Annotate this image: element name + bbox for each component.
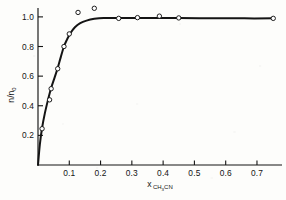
data-point-marker bbox=[47, 98, 51, 102]
x-axis-title: xCH3CN bbox=[147, 179, 172, 192]
x-axis-tick-labels: 0.10.20.30.40.50.60.7 bbox=[63, 168, 263, 178]
x-tick-label: 0.6 bbox=[220, 168, 232, 178]
data-point-marker bbox=[117, 16, 121, 20]
x-tick-label: 0.1 bbox=[63, 168, 75, 178]
chart-plot: 0.10.20.30.40.50.60.7 0.20.40.60.81.0 n/… bbox=[0, 0, 286, 200]
data-point-marker bbox=[40, 127, 44, 131]
axes-group bbox=[38, 8, 282, 165]
x-tick-label: 0.7 bbox=[251, 168, 263, 178]
data-point-marker bbox=[271, 16, 275, 20]
y-tick-label: 0.6 bbox=[22, 71, 34, 81]
y-axis-title: n/n0 bbox=[6, 87, 17, 103]
data-point-marker bbox=[92, 6, 96, 10]
data-point-marker bbox=[67, 32, 71, 36]
data-point-marker bbox=[62, 44, 66, 48]
x-tick-label: 0.5 bbox=[188, 168, 200, 178]
fitted-curve bbox=[38, 18, 273, 165]
svg-text:xCH3CN: xCH3CN bbox=[147, 179, 172, 192]
x-tick-label: 0.4 bbox=[157, 168, 169, 178]
y-tick-label: 0.8 bbox=[22, 42, 34, 52]
y-tick-label: 1.0 bbox=[22, 12, 34, 22]
x-tick-label: 0.2 bbox=[95, 168, 107, 178]
data-point-markers bbox=[40, 6, 276, 131]
svg-text:n/n0: n/n0 bbox=[6, 87, 17, 103]
figure-canvas: 0.10.20.30.40.50.60.7 0.20.40.60.81.0 n/… bbox=[0, 0, 286, 200]
x-axis-ticks bbox=[69, 161, 257, 166]
y-axis-tick-labels: 0.20.40.60.81.0 bbox=[22, 12, 34, 140]
x-tick-label: 0.3 bbox=[126, 168, 138, 178]
x-axis-title-symbol: x bbox=[147, 179, 152, 189]
data-point-marker bbox=[56, 67, 60, 71]
x-axis-title-sub-ch: CH bbox=[153, 184, 162, 190]
data-point-marker bbox=[76, 10, 80, 14]
data-point-marker bbox=[177, 16, 181, 20]
y-tick-label: 0.4 bbox=[22, 101, 34, 111]
data-point-marker bbox=[49, 87, 53, 91]
y-tick-label: 0.2 bbox=[22, 130, 34, 140]
y-axis-title-subscript: 0 bbox=[11, 87, 17, 91]
x-axis-title-sub-cn: CN bbox=[164, 184, 173, 190]
data-point-marker bbox=[135, 15, 139, 19]
data-point-marker bbox=[157, 14, 161, 18]
y-axis-ticks bbox=[38, 17, 43, 135]
